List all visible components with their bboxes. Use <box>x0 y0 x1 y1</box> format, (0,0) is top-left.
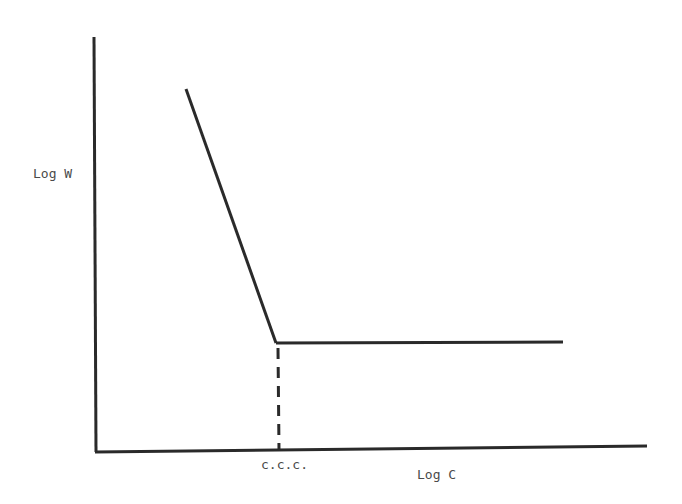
ccc-dashed-line <box>278 348 279 450</box>
plateau-segment <box>276 342 563 343</box>
y-axis <box>94 37 96 452</box>
x-axis-label: Log C <box>417 467 456 482</box>
chart-canvas <box>0 0 682 504</box>
descending-segment <box>186 89 276 343</box>
ccc-tick-label: c.c.c. <box>261 457 308 472</box>
chart-figure: Log W c.c.c. Log C <box>0 0 682 504</box>
x-axis <box>95 446 647 452</box>
y-axis-label: Log W <box>33 166 72 181</box>
